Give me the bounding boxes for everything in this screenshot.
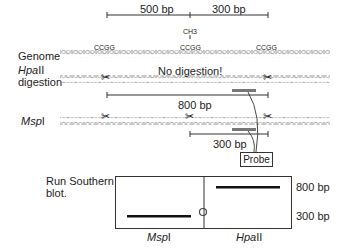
blot-title-line2: blot. <box>46 187 67 199</box>
ccgg-site-3: CCGG <box>256 42 277 54</box>
svg-text:✂: ✂ <box>101 110 110 123</box>
methyl-label: CH3 <box>183 26 197 38</box>
fragment-300bp-line <box>190 131 268 137</box>
genome-label: Genome <box>18 50 60 62</box>
ccgg-site-2: CCGG <box>180 42 201 54</box>
scale-right-label: 300 bp <box>212 3 246 15</box>
lane-label-mspi: MspI <box>147 231 171 243</box>
southern-blot-panel <box>115 176 292 229</box>
lane-label-hpaii: HpaII <box>236 231 262 243</box>
marker-300bp: 300 bp <box>296 210 330 222</box>
blot-title-line1: Run Southern <box>46 175 114 187</box>
ccgg-site-1: CCGG <box>94 42 115 54</box>
probe-bar-mspi <box>232 128 256 131</box>
svg-text:✂: ✂ <box>263 71 272 84</box>
fragment-800bp-label: 800 bp <box>178 99 212 111</box>
scale-left-label: 500 bp <box>140 3 174 15</box>
probe-label-box: Probe <box>240 152 273 167</box>
svg-text:✂: ✂ <box>185 110 194 123</box>
fragment-800bp-line <box>107 92 268 98</box>
probe-bar-hpaii <box>232 89 256 92</box>
svg-text:✂: ✂ <box>263 110 272 123</box>
no-digestion-note: No digestion! <box>158 65 222 77</box>
mspi-label: MspI <box>21 115 45 127</box>
fragment-300bp-label: 300 bp <box>213 138 247 150</box>
marker-800bp: 800 bp <box>296 181 330 193</box>
hpaii-digestion-label: digestion <box>18 76 62 88</box>
svg-text:✂: ✂ <box>101 71 110 84</box>
hpaii-label: HpaII <box>18 64 44 76</box>
